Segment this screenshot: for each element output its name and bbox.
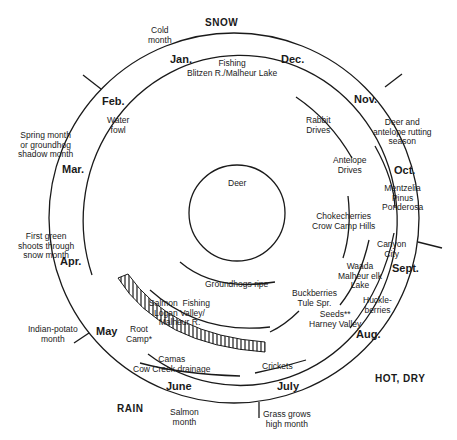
activity-canyon-city: Canyon City	[377, 240, 406, 259]
label-green-shoots-month: First green shoots through snow month	[18, 232, 74, 261]
season-rain: RAIN	[117, 403, 143, 414]
activity-camas: Camas Cow Creek drainage	[133, 355, 210, 374]
month-oct: Oct.	[394, 164, 415, 176]
tick-nov	[385, 74, 402, 87]
activity-crickets: Crickets	[262, 362, 293, 372]
month-sept: Sept.	[392, 262, 419, 274]
label-spring-month: Spring month or groundhog shadow month	[18, 131, 73, 160]
activity-huckleberries: Huckle- berries	[363, 296, 392, 315]
activity-seeds: Seeds** Harney Valley	[309, 310, 361, 329]
activity-groundhogs: Groundhogs ripe	[205, 280, 268, 290]
activity-chokecherries: Chokecherries Crow Camp Hills	[312, 212, 375, 231]
tick-jan-feb	[83, 75, 101, 89]
buckberry-arc	[270, 311, 299, 332]
month-mar: Mar.	[62, 163, 84, 175]
label-rutting-season: Deer and antelope rutting season	[373, 118, 432, 147]
month-dec: Dec.	[281, 53, 304, 65]
month-june: June	[166, 380, 192, 392]
activity-buckberries: Buckberries Tule Spr.	[292, 289, 337, 308]
month-july: July	[277, 380, 299, 392]
label-grass-grows-month: Grass grows high month	[263, 410, 311, 429]
label-cold-month: Cold month	[148, 26, 172, 45]
label-salmon-month: Salmon month	[170, 408, 199, 427]
activity-fishing: Fishing Blitzen R./Malheur Lake	[187, 59, 277, 78]
month-feb: Feb.	[102, 95, 125, 107]
activity-mentzelia: Mentzelia Pinus Ponderosa	[382, 184, 423, 213]
activity-antelope-drives: Antelope Drives	[333, 156, 367, 175]
activity-waada: Waada Malheur elk Lake	[338, 262, 382, 291]
month-aug: Aug.	[356, 328, 380, 340]
month-nov: Nov.	[354, 93, 377, 105]
season-hot-dry: HOT, DRY	[375, 373, 425, 384]
activity-water-fowl: Water fowl	[107, 116, 129, 135]
activity-salmon-fishing: Salmon Fishing Logan Valley/ Malheur R.	[149, 299, 210, 328]
activity-deer: Deer	[228, 179, 246, 189]
label-indian-potato-month: Indian-potato month	[28, 325, 78, 344]
activity-root-camp: Root Camp*	[126, 325, 152, 344]
season-snow: SNOW	[205, 17, 238, 28]
activity-rabbit-drives: Rabbit Drives	[306, 116, 331, 135]
tick-sept	[418, 242, 442, 248]
month-may: May	[96, 325, 117, 337]
